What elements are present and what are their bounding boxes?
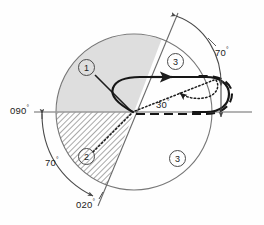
label-angle-70-right: 70° xyxy=(215,47,229,58)
diagram-svg xyxy=(0,0,264,225)
sector-fills xyxy=(56,34,162,185)
inner-return-dotted-arrow xyxy=(180,80,218,98)
marker-circle-3-upper: 3 xyxy=(167,53,184,70)
label-bearing-020-degree: ° xyxy=(92,198,95,205)
label-angle-70-left: 70° xyxy=(45,157,59,168)
label-angle-30-center-degree: ° xyxy=(167,98,170,105)
label-angle-70-right-degree: ° xyxy=(226,46,229,53)
marker-circle-1: 1 xyxy=(78,59,95,76)
diagram-canvas: 090° 70° 020° 70° 30° 1 2 3 3 xyxy=(0,0,264,225)
marker-circle-2-label: 2 xyxy=(84,152,89,162)
label-angle-30-center-value: 30 xyxy=(156,99,167,110)
sector-upper-left-shaded xyxy=(56,34,162,112)
label-bearing-090-value: 090 xyxy=(10,105,26,116)
marker-circle-3-lower: 3 xyxy=(169,150,186,167)
marker-circle-3-upper-label: 3 xyxy=(173,57,178,67)
marker-circle-3-lower-label: 3 xyxy=(175,154,180,164)
angle-30-dotted-ray xyxy=(135,80,214,111)
label-angle-70-right-value: 70 xyxy=(215,47,226,58)
label-angle-70-left-degree: ° xyxy=(56,156,59,163)
label-angle-30-center: 30° xyxy=(156,99,170,110)
label-bearing-090-degree: ° xyxy=(26,104,29,111)
label-bearing-090: 090° xyxy=(10,105,29,116)
label-angle-70-left-value: 70 xyxy=(45,157,56,168)
marker-circle-2: 2 xyxy=(78,148,95,165)
label-bearing-020: 020° xyxy=(76,199,95,210)
marker-circle-1-label: 1 xyxy=(84,63,89,73)
label-bearing-020-value: 020 xyxy=(76,199,92,210)
